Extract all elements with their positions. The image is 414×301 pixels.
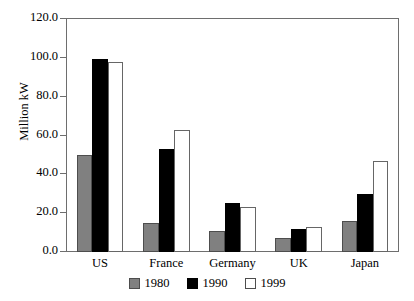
y-axis-tick-label: 120.0	[0, 11, 58, 24]
x-axis-label-germany: Germany	[199, 256, 265, 271]
legend-label-1999: 1999	[261, 277, 286, 290]
bar-us-1980	[77, 155, 93, 252]
bar-japan-1999	[373, 161, 389, 252]
y-axis-title: Million kW	[17, 52, 32, 172]
bar-japan-1980	[342, 221, 358, 252]
y-axis-tick-label: 0.0	[0, 244, 58, 257]
bar-france-1990	[159, 149, 175, 252]
x-axis-label-us: US	[67, 256, 133, 271]
legend-label-1980: 1980	[145, 277, 170, 290]
legend-swatch-icon-1999	[245, 278, 256, 289]
bar-france-1999	[174, 130, 190, 252]
bar-us-1990	[92, 59, 108, 252]
bar-uk-1990	[291, 229, 307, 252]
bar-france-1980	[143, 223, 159, 252]
bar-japan-1990	[357, 194, 373, 252]
legend-label-1990: 1990	[203, 277, 228, 290]
bar-germany-1990	[225, 203, 241, 252]
legend-item-1999[interactable]: 1999	[245, 277, 286, 290]
y-axis-tick-label: 20.0	[0, 205, 58, 218]
legend-item-1990[interactable]: 1990	[187, 277, 228, 290]
y-axis-tick-label: 80.0	[0, 89, 58, 102]
x-axis-label-japan: Japan	[332, 256, 398, 271]
scan-artifact-text	[40, 1, 290, 9]
bar-uk-1980	[275, 238, 291, 252]
bars-layer	[67, 19, 398, 252]
chart-legend: 198019901999	[0, 277, 414, 290]
bar-chart: Million kW 0.020.040.060.080.0100.0120.0…	[0, 0, 414, 301]
bar-us-1999	[108, 62, 124, 252]
bar-uk-1999	[306, 227, 322, 252]
legend-swatch-icon-1980	[129, 278, 140, 289]
x-axis-label-france: France	[133, 256, 199, 271]
bar-germany-1999	[240, 207, 256, 252]
y-axis-tick-label: 60.0	[0, 128, 58, 141]
y-axis-tick-label: 100.0	[0, 50, 58, 63]
x-axis-label-uk: UK	[266, 256, 332, 271]
bar-germany-1980	[209, 231, 225, 252]
legend-item-1980[interactable]: 1980	[129, 277, 170, 290]
y-axis-tick-label: 40.0	[0, 166, 58, 179]
legend-swatch-icon-1990	[187, 278, 198, 289]
